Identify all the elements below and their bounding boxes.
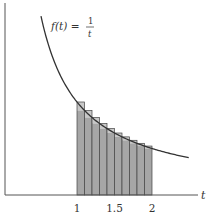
rectangle-body xyxy=(145,149,153,196)
x-tick-label: 2 xyxy=(149,202,156,213)
rectangle-body xyxy=(130,143,138,195)
x-tick-label: 1 xyxy=(74,202,81,213)
riemann-rectangles xyxy=(77,102,152,195)
rectangle-body xyxy=(137,146,145,195)
x-tick-labels: 11.52 xyxy=(74,202,156,213)
rectangle-body xyxy=(122,140,130,195)
rectangle-body xyxy=(115,137,123,195)
x-axis-label: t xyxy=(201,189,206,202)
rectangle-body xyxy=(92,123,100,195)
rectangle-body xyxy=(100,129,108,195)
rectangle-body xyxy=(77,110,85,195)
function-label-denominator: t xyxy=(88,29,92,39)
function-label-lhs: f(t) = xyxy=(50,20,79,32)
function-label: f(t) = 1 t xyxy=(50,16,94,39)
function-label-numerator: 1 xyxy=(88,16,93,26)
riemann-sum-diagram: t 11.52 f(t) = 1 t xyxy=(0,0,210,213)
rectangle-body xyxy=(85,118,93,196)
x-tick-label: 1.5 xyxy=(106,202,123,213)
rectangle-body xyxy=(107,133,115,195)
